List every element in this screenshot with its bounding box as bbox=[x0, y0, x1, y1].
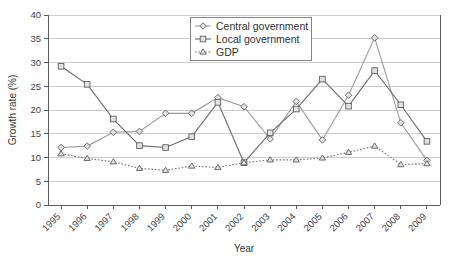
x-tick-label: 2008 bbox=[379, 211, 402, 234]
diamond-icon bbox=[319, 137, 326, 144]
diamond-icon bbox=[371, 35, 378, 42]
y-tick-label: 5 bbox=[36, 176, 41, 187]
x-tick-label: 1995 bbox=[40, 211, 63, 234]
y-tick-marks-and-labels: 0510152025303540 bbox=[30, 9, 48, 210]
growth-rate-line-chart: 0510152025303540 19951996199719981999200… bbox=[0, 0, 459, 261]
y-tick-label: 10 bbox=[30, 152, 41, 163]
square-icon bbox=[137, 143, 143, 149]
square-icon bbox=[424, 139, 430, 145]
y-tick-label: 30 bbox=[30, 57, 41, 68]
x-tick-label: 2004 bbox=[275, 211, 298, 234]
y-axis-title: Growth rate (%) bbox=[7, 75, 18, 146]
square-icon bbox=[200, 36, 206, 42]
legend: Central government Local government GDP bbox=[190, 18, 311, 61]
diamond-icon bbox=[84, 143, 91, 150]
x-tick-label: 2003 bbox=[249, 211, 272, 234]
y-tick-label: 25 bbox=[30, 81, 41, 92]
square-icon bbox=[267, 130, 273, 136]
triangle-icon bbox=[110, 159, 116, 164]
x-tick-marks-and-labels: 1995199619971998199920002001200220032004… bbox=[40, 205, 429, 233]
diamond-icon bbox=[162, 110, 169, 117]
y-tick-label: 40 bbox=[30, 9, 41, 20]
square-icon bbox=[111, 116, 117, 122]
legend-label-gdp: GDP bbox=[216, 46, 239, 58]
x-tick-label: 2007 bbox=[353, 211, 376, 234]
square-icon bbox=[163, 145, 169, 151]
chart-canvas: 0510152025303540 19951996199719981999200… bbox=[0, 0, 459, 261]
x-tick-label: 2005 bbox=[301, 211, 324, 234]
x-tick-label: 2000 bbox=[170, 211, 193, 234]
y-tick-label: 20 bbox=[30, 104, 41, 115]
triangle-icon bbox=[136, 165, 142, 170]
square-icon bbox=[58, 64, 64, 70]
x-tick-label: 1998 bbox=[118, 211, 141, 234]
square-icon bbox=[320, 76, 326, 82]
square-icon bbox=[372, 68, 378, 74]
series-local-government bbox=[58, 64, 429, 166]
series-line bbox=[61, 146, 427, 170]
y-tick-label: 15 bbox=[30, 128, 41, 139]
x-tick-label: 1997 bbox=[92, 211, 115, 234]
y-tick-label: 35 bbox=[30, 33, 41, 44]
x-tick-label: 1999 bbox=[144, 211, 167, 234]
x-tick-label: 2001 bbox=[197, 211, 220, 234]
x-axis-title: Year bbox=[234, 243, 255, 254]
x-tick-label: 2002 bbox=[223, 211, 246, 234]
x-tick-label: 1996 bbox=[66, 211, 89, 234]
square-icon bbox=[215, 100, 221, 106]
triangle-icon bbox=[189, 163, 195, 168]
diamond-icon bbox=[398, 120, 405, 127]
triangle-icon bbox=[398, 162, 404, 167]
triangle-icon bbox=[371, 143, 377, 148]
square-icon bbox=[293, 106, 299, 112]
x-tick-label: 2009 bbox=[406, 211, 429, 234]
x-tick-label: 2006 bbox=[327, 211, 350, 234]
square-icon bbox=[189, 134, 195, 140]
triangle-icon bbox=[58, 151, 64, 156]
diamond-icon bbox=[293, 98, 300, 105]
legend-label-local-government: Local government bbox=[216, 33, 300, 45]
diamond-icon bbox=[188, 110, 195, 117]
triangle-icon bbox=[162, 167, 168, 172]
square-icon bbox=[84, 82, 90, 88]
diamond-icon bbox=[110, 129, 117, 136]
square-icon bbox=[346, 103, 352, 109]
square-icon bbox=[398, 102, 404, 108]
diamond-icon bbox=[345, 92, 352, 99]
legend-label-central-government: Central government bbox=[216, 20, 308, 32]
y-tick-label: 0 bbox=[36, 199, 41, 210]
